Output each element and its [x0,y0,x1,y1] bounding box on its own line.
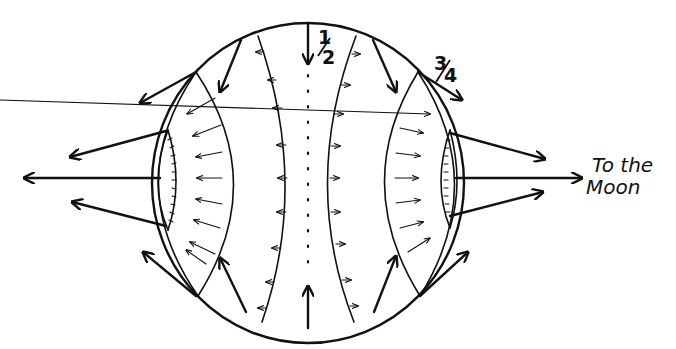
arrow-bottom-left [220,258,246,312]
svg-text:To the: To the [592,153,653,177]
svg-text:4: 4 [444,64,457,86]
center-left-curve [258,36,285,322]
right-lens-inner [418,72,455,296]
right-lens-small-arrows [0,100,430,252]
arrow-right-bottom [420,252,468,296]
arrow-left-upper [70,131,166,157]
center-right-small-arrows [330,54,360,306]
svg-text:2: 2 [322,46,335,68]
left-small-lens-ticks [168,138,176,222]
right-small-lens [441,130,450,228]
arrow-left-top [140,72,196,103]
right-lens-outer [384,72,420,296]
svg-text:Moon: Moon [586,175,640,199]
arrow-left-lower [72,202,166,226]
center-right-curve [327,36,356,322]
arrow-bottom-right [374,256,396,312]
left-small-lens [158,130,168,230]
arrow-right-upper [450,133,545,159]
label-to-the-moon: To the Moon [586,153,653,199]
center-left-small-arrows [256,52,287,308]
label-half: 1 2 [318,26,335,68]
tidal-force-diagram: 1 2 3 4 To the Moon [0,0,676,349]
left-lens-small-arrows [186,98,222,264]
label-three-quarter: 3 4 [434,52,457,86]
